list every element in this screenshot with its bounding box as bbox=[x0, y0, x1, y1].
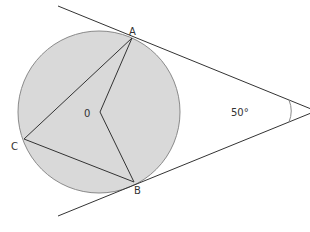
geometry-diagram: A B C 0 50° T bbox=[0, 0, 310, 232]
label-B: B bbox=[134, 185, 141, 196]
label-O: 0 bbox=[84, 108, 90, 119]
angle-arc-T bbox=[289, 100, 291, 122]
label-A: A bbox=[129, 26, 136, 37]
label-angle: 50° bbox=[231, 107, 249, 118]
label-C: C bbox=[11, 141, 18, 152]
